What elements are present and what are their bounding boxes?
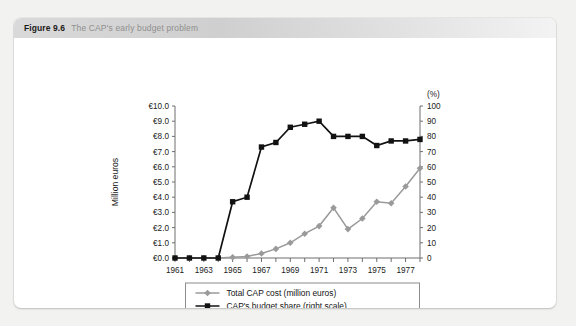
- data-point: [403, 138, 408, 143]
- y-axis-left-tick-label: €7.0: [153, 148, 169, 157]
- y-axis-right-tick-label: 20: [427, 224, 437, 233]
- data-point: [331, 134, 336, 139]
- data-point: [187, 255, 192, 260]
- y-axis-right-tick-label: 100: [427, 102, 441, 111]
- data-point: [216, 255, 221, 260]
- data-point: [374, 143, 379, 148]
- y-axis-left-tick-label: €9.0: [153, 117, 169, 126]
- data-point: [259, 144, 264, 149]
- figure-title: The CAP's early budget problem: [71, 23, 198, 33]
- data-point: [244, 253, 251, 260]
- y-axis-right-tick-label: 0: [427, 254, 432, 263]
- x-axis-tick-label: 1973: [339, 266, 358, 275]
- data-point: [388, 138, 393, 143]
- y-axis-left-tick-label: €2.0: [153, 224, 169, 233]
- data-point: [229, 254, 236, 261]
- x-axis-tick-label: 1975: [368, 266, 387, 275]
- screenshot-root: Figure 9.6 The CAP's early budget proble…: [0, 0, 576, 326]
- data-point: [201, 255, 206, 260]
- y-axis-right-unit-label: (%): [427, 90, 440, 99]
- y-axis-right-tick-label: 50: [427, 178, 437, 187]
- figure-number: Figure 9.6: [24, 23, 65, 33]
- data-point: [230, 199, 235, 204]
- y-axis-left-tick-label: €1.0: [153, 239, 169, 248]
- data-point: [288, 125, 293, 130]
- data-point: [417, 137, 422, 142]
- legend-marker-square: [205, 303, 210, 308]
- data-point: [302, 122, 307, 127]
- data-point: [273, 246, 280, 253]
- y-axis-right-tick-label: 30: [427, 208, 437, 217]
- series-line-0: [175, 168, 420, 258]
- data-point: [345, 134, 350, 139]
- y-axis-left-tick-label: €4.0: [153, 193, 169, 202]
- x-axis-tick-label: 1961: [166, 266, 185, 275]
- y-axis-right-tick-label: 60: [427, 163, 437, 172]
- y-axis-left-tick-label: €3.0: [153, 208, 169, 217]
- figure-caption-bar: Figure 9.6 The CAP's early budget proble…: [14, 18, 556, 38]
- line-chart: €0.0€1.0€2.0€3.0€4.0€5.0€6.0€7.0€8.0€9.0…: [14, 38, 556, 308]
- data-point: [273, 140, 278, 145]
- legend-label: Total CAP cost (million euros): [227, 288, 337, 298]
- y-axis-right-tick-label: 90: [427, 117, 437, 126]
- y-axis-right-tick-label: 80: [427, 132, 437, 141]
- data-point: [360, 134, 365, 139]
- y-axis-right-tick-label: 70: [427, 148, 437, 157]
- x-axis-tick-label: 1971: [310, 266, 329, 275]
- data-point: [172, 255, 177, 260]
- x-axis-tick-label: 1965: [224, 266, 243, 275]
- y-axis-left-tick-label: €6.0: [153, 163, 169, 172]
- y-axis-right-tick-label: 40: [427, 193, 437, 202]
- x-axis-tick-label: 1969: [281, 266, 300, 275]
- y-axis-left-tick-label: €10.0: [149, 102, 170, 111]
- y-axis-left-tick-label: €8.0: [153, 132, 169, 141]
- y-axis-left-tick-label: €5.0: [153, 178, 169, 187]
- data-point: [244, 195, 249, 200]
- x-axis-tick-label: 1977: [396, 266, 415, 275]
- figure-card: Figure 9.6 The CAP's early budget proble…: [14, 18, 556, 308]
- chart-plot-area: €0.0€1.0€2.0€3.0€4.0€5.0€6.0€7.0€8.0€9.0…: [14, 38, 556, 308]
- y-axis-left-tick-label: €0.0: [153, 254, 169, 263]
- legend-label: CAP's budget share (right scale): [227, 301, 348, 308]
- x-axis-tick-label: 1963: [195, 266, 214, 275]
- y-axis-right-tick-label: 10: [427, 239, 437, 248]
- data-point: [316, 119, 321, 124]
- x-axis-tick-label: 1967: [252, 266, 271, 275]
- data-point: [258, 250, 265, 257]
- y-axis-left-title: Million euros: [110, 158, 120, 206]
